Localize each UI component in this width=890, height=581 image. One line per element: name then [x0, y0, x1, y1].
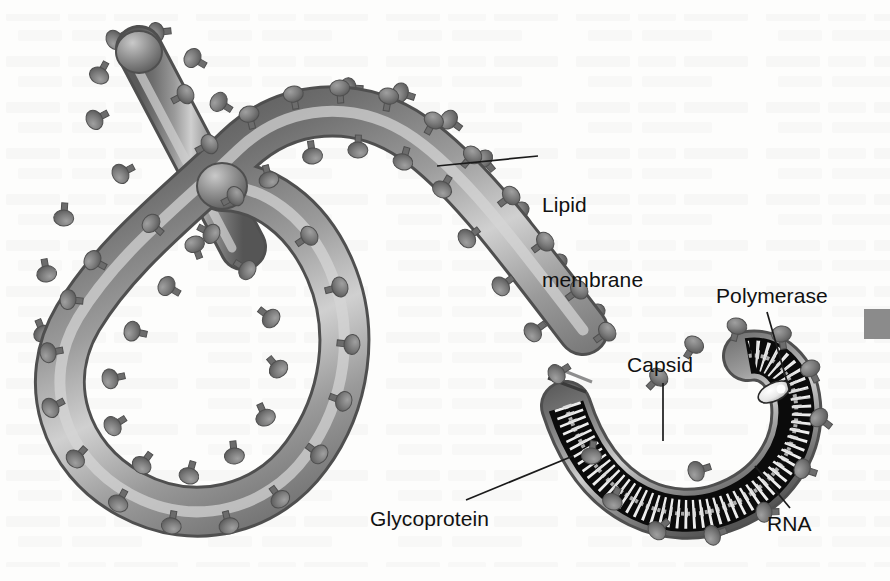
label-capsid: Capsid [627, 352, 693, 377]
label-polymerase: Polymerase [716, 283, 828, 308]
label-lipid-membrane-line1: Lipid [542, 192, 643, 217]
virion-diagram-figure: Lipid membrane Polymerase Capsid Glycopr… [0, 0, 890, 581]
label-lipid-membrane-line2: membrane [542, 267, 643, 292]
branch-arm-cap [116, 31, 162, 73]
label-rna: RNA [767, 511, 812, 536]
page-edge-swatch [864, 309, 890, 339]
label-lipid-membrane: Lipid membrane [542, 142, 643, 342]
label-glycoprotein: Glycoprotein [370, 506, 489, 531]
